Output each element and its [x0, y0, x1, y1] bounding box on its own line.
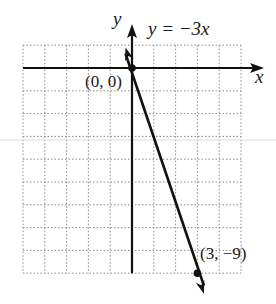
series-line: [125, 47, 204, 293]
y-axis-label: y: [113, 8, 121, 30]
line-y-equals-neg3x: [125, 53, 203, 285]
origin-point-label: (0, 0): [85, 72, 122, 92]
data-point: [128, 64, 136, 72]
second-point-label: (3, −9): [200, 244, 246, 264]
data-point: [194, 269, 202, 277]
x-axis-label: x: [255, 66, 263, 88]
axes: [23, 24, 264, 273]
equation-label: y = −3x: [148, 18, 210, 40]
